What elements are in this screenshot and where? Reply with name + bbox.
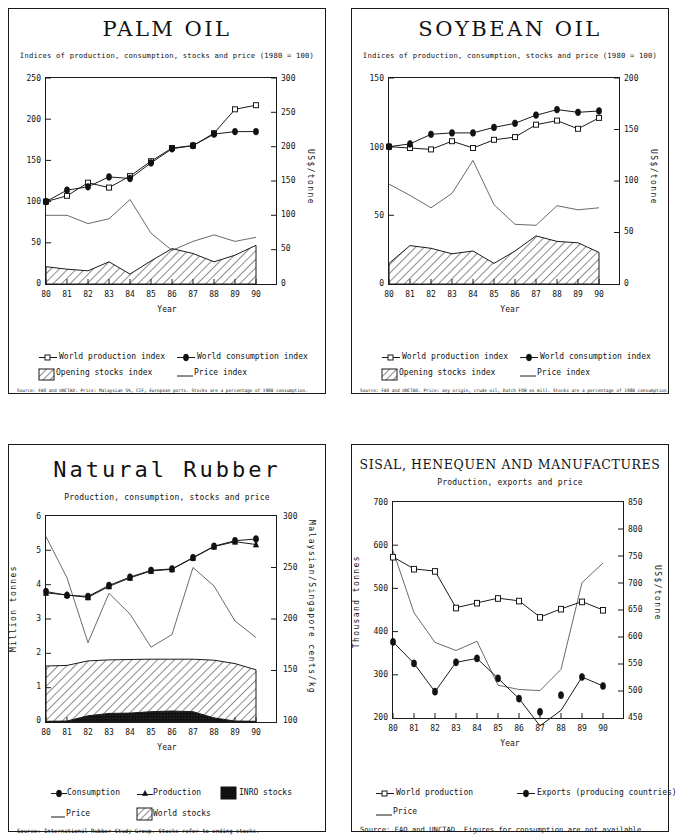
legend-item-inro-stocks[interactable]: INRO stocks (221, 787, 239, 799)
legend-label: World stocks (153, 809, 211, 818)
x-tick: 81 (404, 724, 424, 733)
y-left-tick: 2 (17, 649, 41, 657)
legend-item-exports[interactable]: Exports (producing countries) (517, 789, 535, 798)
legend-label: World production index (59, 352, 165, 361)
y-left-tick: 50 (358, 212, 384, 220)
x-tick: 82 (421, 290, 441, 299)
legend-item-price[interactable]: Price (51, 810, 67, 819)
y-right-tick: 200 (283, 615, 297, 623)
x-tick: 88 (204, 290, 224, 299)
y-right-tick: 100 (624, 177, 638, 185)
legend-marker-open-square-line (376, 789, 394, 798)
x-axis-title: Year (9, 743, 325, 752)
x-tick: 85 (488, 724, 508, 733)
plot-svg (46, 516, 276, 722)
y-left-tick: 100 (15, 198, 41, 206)
legend-marker-solid-swatch (221, 787, 239, 799)
series-price-index-line (389, 160, 599, 225)
legend-marker-open-square-line (39, 353, 57, 362)
legend-item-world-production-index[interactable]: World production index (39, 353, 57, 362)
legend-marker-filled-dot-line (177, 353, 195, 362)
legend-item-price-index[interactable]: Price index (520, 369, 538, 378)
y-right-tick: 300 (281, 75, 295, 83)
legend-item-production[interactable]: Production (137, 789, 153, 798)
y-right-tick: 150 (624, 126, 638, 134)
x-tick: 86 (509, 724, 529, 733)
x-tick: 88 (547, 290, 567, 299)
y-right-tick: 50 (281, 245, 291, 253)
x-tick: 90 (246, 290, 266, 299)
legend-label: Price (393, 807, 417, 816)
x-tick: 90 (593, 724, 613, 733)
legend-label: World consumption index (540, 352, 651, 361)
y-right-tick: 100 (281, 211, 295, 219)
y-left-tick: 200 (15, 116, 41, 124)
legend-marker-plain-line (51, 810, 67, 819)
y-left-tick: 500 (360, 585, 388, 593)
chart-subtitle: Indices of production, consumption, stoc… (9, 51, 325, 60)
x-tick: 87 (526, 290, 546, 299)
series-opening-stocks-area (46, 245, 256, 284)
legend-label: Exports (producing countries) (537, 788, 677, 797)
y-right-tick: 200 (281, 143, 295, 151)
legend-marker-hatched-swatch (382, 369, 400, 380)
chart-subtitle: Production, consumption, stocks and pric… (9, 493, 325, 502)
x-tick: 87 (530, 724, 550, 733)
x-axis-title: Year (9, 305, 325, 314)
y-right-tick: 150 (283, 666, 297, 674)
x-tick: 87 (183, 728, 203, 737)
legend-item-world-consumption-index[interactable]: World consumption index (520, 353, 538, 362)
legend-item-opening-stocks-index[interactable]: Opening stocks index (382, 369, 400, 380)
legend-item-world-production[interactable]: World production (376, 789, 394, 798)
x-tick: 80 (383, 724, 403, 733)
chart-panel-sisal-henequen: SISAL, HENEQUEN AND MANUFACTURES Product… (351, 444, 669, 832)
x-tick: 86 (162, 728, 182, 737)
y-axis-right-title: US$/tonne (649, 149, 658, 205)
legend-marker-filled-dot-line (51, 789, 67, 798)
y-left-tick: 400 (360, 628, 388, 636)
series-price-line (46, 537, 256, 648)
x-tick: 88 (204, 728, 224, 737)
x-tick: 86 (162, 290, 182, 299)
chart-panel-soybean-oil: SOYBEAN OIL Indices of production, consu… (351, 8, 669, 394)
x-tick: 84 (463, 290, 483, 299)
x-tick: 85 (141, 728, 161, 737)
x-tick: 80 (379, 290, 399, 299)
legend-label: World production (396, 788, 473, 797)
legend-item-consumption[interactable]: Consumption (51, 789, 67, 798)
legend-item-price[interactable]: Price (376, 808, 394, 817)
legend-label: Opening stocks index (56, 368, 152, 377)
chart-source-note: Source: International Rubber Study Group… (17, 828, 259, 834)
x-tick: 82 (78, 290, 98, 299)
x-tick: 82 (78, 728, 98, 737)
legend-label: INRO stocks (239, 788, 292, 797)
y-right-tick: 300 (283, 513, 297, 521)
series-world-production-line (389, 118, 599, 149)
x-tick: 84 (467, 724, 487, 733)
axis-ticks (393, 529, 623, 718)
legend-marker-filled-dot-line (520, 353, 538, 362)
legend-label: World production index (402, 352, 508, 361)
y-axis-right-title: US$/tonne (653, 565, 662, 621)
chart-title: PALM OIL (9, 17, 325, 41)
legend-item-opening-stocks-index[interactable]: Opening stocks index (39, 369, 57, 380)
chart-subtitle: Indices of production, consumption, stoc… (352, 51, 668, 60)
chart-title: SISAL, HENEQUEN AND MANUFACTURES (352, 457, 668, 472)
x-tick: 90 (246, 728, 266, 737)
plot-area (388, 77, 620, 285)
legend-item-price-index[interactable]: Price index (177, 369, 195, 378)
legend-item-world-stocks[interactable]: World stocks (137, 808, 155, 820)
x-tick: 83 (446, 724, 466, 733)
series-price-index-line (46, 200, 256, 251)
chart-source-note: Source: FAO and UNCTAD. Figures for cons… (360, 825, 646, 834)
series-world-production-line (46, 105, 256, 201)
x-tick: 89 (225, 728, 245, 737)
y-axis-left-title: Thousand tonnes (352, 555, 361, 648)
x-tick: 83 (442, 290, 462, 299)
legend-marker-plain-line (177, 369, 195, 378)
x-axis-title: Year (352, 739, 668, 748)
y-left-tick: 250 (15, 75, 41, 83)
legend-item-world-consumption-index[interactable]: World consumption index (177, 353, 195, 362)
legend-item-world-production-index[interactable]: World production index (382, 353, 400, 362)
series-price-line (393, 551, 603, 691)
